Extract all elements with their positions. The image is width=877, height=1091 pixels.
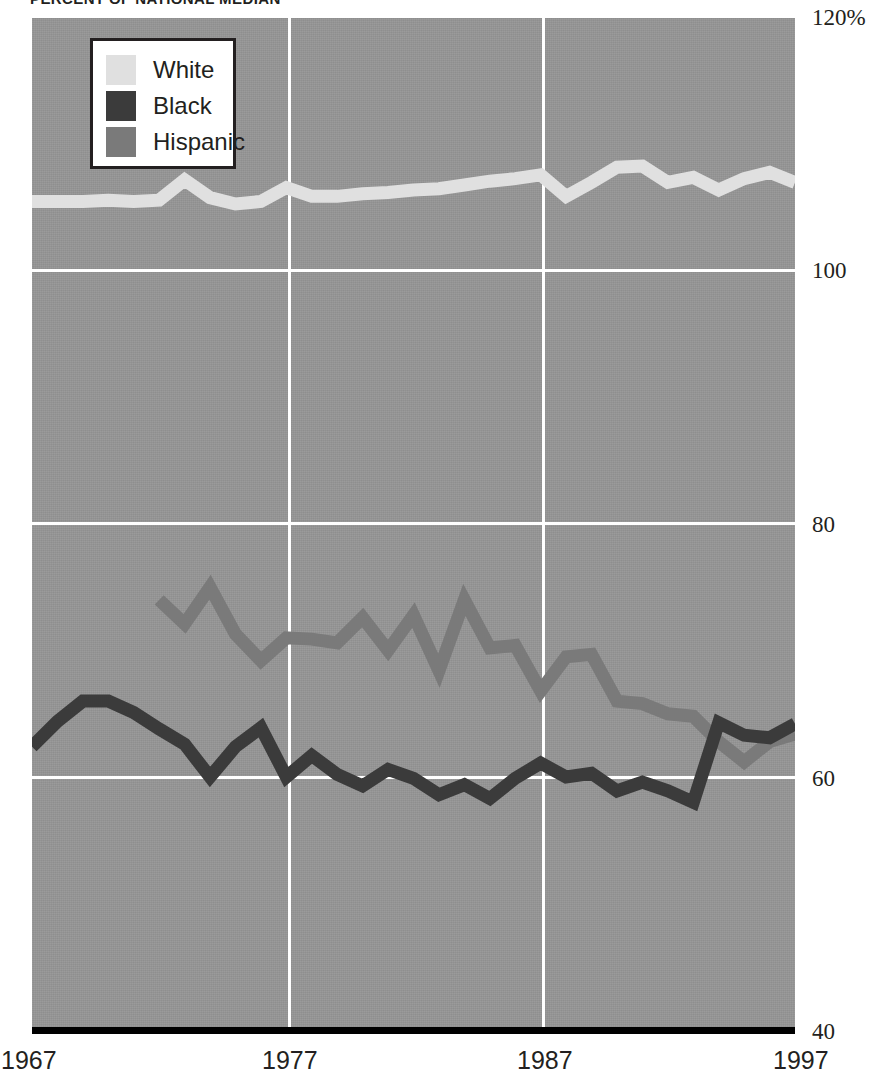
legend: White Black Hispanic — [90, 38, 236, 169]
legend-label-white: White — [153, 58, 214, 82]
plot-area: White Black Hispanic — [32, 18, 795, 1030]
y-tick-label-40: 40 — [812, 1019, 835, 1045]
legend-swatch-black-icon — [106, 91, 136, 121]
series-container — [32, 18, 795, 1030]
page-title: PERCENT OF NATIONAL MEDIAN — [30, 0, 281, 7]
y-tick-label-80: 80 — [812, 512, 835, 538]
series-line-white — [32, 166, 795, 204]
legend-swatch-hispanic-icon — [106, 127, 136, 157]
x-tick-label-1987: 1987 — [517, 1046, 573, 1075]
legend-label-black: Black — [153, 94, 212, 118]
y-tick-label-60: 60 — [812, 766, 835, 792]
axis-baseline — [32, 1027, 795, 1034]
legend-swatch-white-icon — [106, 55, 136, 85]
legend-item-hispanic: Hispanic — [106, 127, 245, 157]
x-tick-label-1977: 1977 — [262, 1046, 318, 1075]
x-tick-label-1997: 1997 — [773, 1046, 829, 1075]
chart-page: PERCENT OF NATIONAL MEDIAN White Black — [0, 0, 877, 1091]
x-tick-label-1967: 1967 — [1, 1046, 57, 1075]
legend-label-hispanic: Hispanic — [153, 130, 245, 154]
y-tick-label-120: 120% — [812, 5, 866, 31]
legend-item-white: White — [106, 55, 214, 85]
legend-item-black: Black — [106, 91, 212, 121]
y-tick-label-100: 100 — [812, 258, 847, 284]
